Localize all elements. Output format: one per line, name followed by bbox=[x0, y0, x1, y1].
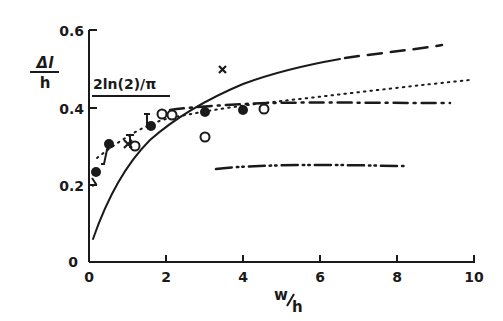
y-tick-labels: 0.6 0.4 0.2 0 bbox=[59, 23, 84, 270]
curve-dash-dot bbox=[170, 103, 450, 110]
x-tick-labels: 0 2 4 6 8 10 bbox=[84, 269, 484, 285]
asymptote-annotation: 2ln(2)/π bbox=[92, 76, 170, 96]
x-tick: 10 bbox=[464, 269, 484, 285]
x-tick: 0 bbox=[84, 269, 94, 285]
chart: 0.6 0.4 0.2 0 0 2 4 6 8 10 Δl h w h 2ln(… bbox=[0, 0, 503, 321]
y-tick: 0 bbox=[68, 254, 78, 270]
x-label-denominator: h bbox=[292, 298, 303, 316]
y-tick: 0.6 bbox=[59, 23, 84, 39]
y-axis-label: Δl h bbox=[30, 54, 59, 92]
x-axis-label: w h bbox=[274, 286, 303, 316]
x-tick: 6 bbox=[315, 269, 325, 285]
y-tick: 0.2 bbox=[59, 178, 84, 194]
y-label-numerator: Δl bbox=[36, 54, 55, 72]
x-tick: 8 bbox=[392, 269, 402, 285]
y-label-denominator: h bbox=[40, 74, 51, 92]
asymptote-label: 2ln(2)/π bbox=[93, 76, 156, 92]
x-tick: 2 bbox=[161, 269, 171, 285]
axes bbox=[89, 30, 475, 262]
curve-dash-dot-dot bbox=[216, 165, 405, 169]
curves bbox=[93, 45, 470, 239]
x-tick: 4 bbox=[238, 269, 248, 285]
x-label-numerator: w bbox=[274, 286, 288, 304]
y-tick: 0.4 bbox=[59, 101, 84, 117]
curve-dashed bbox=[345, 45, 442, 58]
